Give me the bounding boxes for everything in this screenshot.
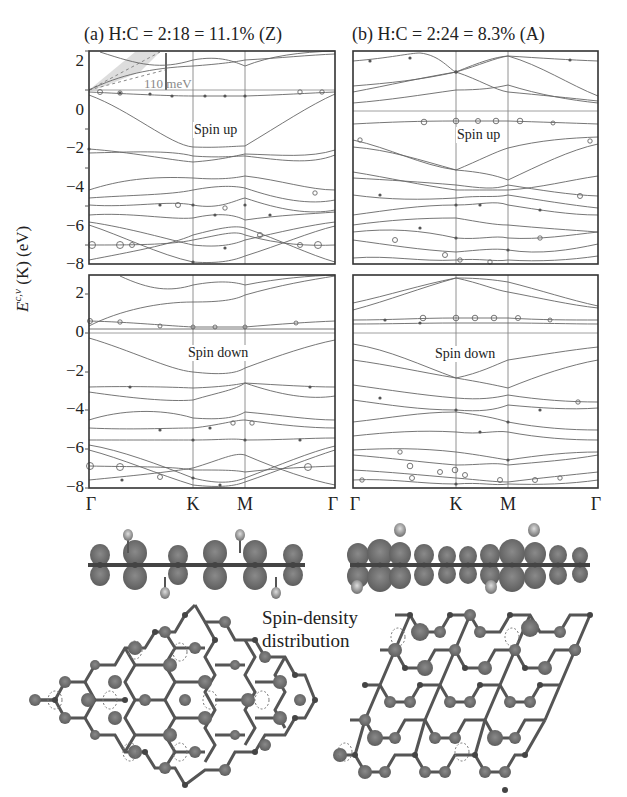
top-view-b xyxy=(340,615,590,772)
spin-density-structures xyxy=(0,0,627,797)
side-view-a xyxy=(88,529,305,599)
spin-density-label-line2: distribution xyxy=(262,629,358,652)
spin-density-label: Spin-density distribution xyxy=(262,606,358,652)
side-view-b xyxy=(347,523,590,594)
spin-density-label-line1: Spin-density xyxy=(262,606,358,629)
